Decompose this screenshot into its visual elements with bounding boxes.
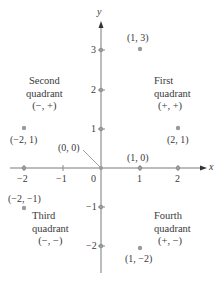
x-axis-arrow-icon (200, 166, 207, 171)
y-tick-label: 3 (91, 44, 96, 55)
quadrant-fourth-signs: (+, −) (154, 235, 191, 248)
x-tick-label: 1 (137, 173, 142, 184)
quadrant-fourth-name: Fourth (154, 210, 191, 223)
point-1-neg2 (138, 246, 142, 250)
point-origin (99, 166, 103, 170)
origin-leader-line (83, 150, 101, 168)
quadrant-first-signs: (+, +) (154, 100, 191, 113)
x-tick-label: −1 (56, 173, 67, 184)
quadrant-second-name: Second (26, 75, 63, 88)
y-axis-arrow-icon (99, 21, 104, 28)
y-axis-label: y (97, 6, 101, 17)
point-label-1-3: (1, 3) (127, 32, 149, 43)
point-label-origin: (0, 0) (58, 142, 80, 153)
point-neg2-neg1 (22, 206, 26, 210)
quadrant-second: Second quadrant (−, +) (26, 75, 63, 113)
quadrant-first-name: First (154, 75, 191, 88)
quadrant-third: Third quadrant (−, −) (32, 210, 69, 248)
point-label-neg2-1: (−2, 1) (10, 134, 37, 145)
point-1-3 (138, 47, 142, 51)
y-tick-label: −1 (86, 201, 97, 212)
quadrant-first: First quadrant (+, +) (154, 75, 191, 113)
y-tick-label: 2 (91, 84, 96, 95)
quadrant-third-name: Third (32, 210, 69, 223)
quadrant-second-word: quadrant (26, 88, 63, 101)
y-tick-label: 1 (91, 123, 96, 134)
x-tick-label: 2 (175, 173, 180, 184)
point-neg2-1 (22, 126, 26, 130)
x-axis-label: x (209, 161, 213, 172)
x-tick-label: 0 (91, 173, 96, 184)
point-2-1 (176, 126, 180, 130)
point-label-2-1: (2, 1) (167, 134, 189, 145)
quadrant-fourth-word: quadrant (154, 223, 191, 236)
x-tick-label: −2 (17, 173, 28, 184)
quadrant-second-signs: (−, +) (26, 100, 63, 113)
point-label-neg2-neg1: (−2, −1) (8, 193, 41, 204)
point-label-1-neg2: (1, −2) (125, 253, 152, 264)
quadrant-first-word: quadrant (154, 88, 191, 101)
quadrant-fourth: Fourth quadrant (+, −) (154, 210, 191, 248)
quadrant-third-signs: (−, −) (32, 235, 69, 248)
quadrant-third-word: quadrant (32, 223, 69, 236)
y-tick-label: −2 (86, 240, 97, 251)
point-label-1-0: (1, 0) (127, 152, 149, 163)
